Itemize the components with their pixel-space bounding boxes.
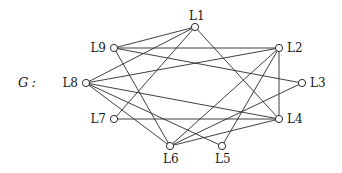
node-l3 xyxy=(298,79,305,86)
node-l5 xyxy=(218,142,225,149)
node-label-l6: L6 xyxy=(163,152,179,166)
node-l1 xyxy=(191,23,198,30)
node-label-l5: L5 xyxy=(215,152,231,166)
edge-l8-l4 xyxy=(86,83,279,119)
edge-l8-l1 xyxy=(86,27,195,83)
edge-l8-l5 xyxy=(86,83,222,146)
node-l7 xyxy=(110,115,117,122)
node-label-l9: L9 xyxy=(90,41,106,55)
node-label-l7: L7 xyxy=(90,112,106,126)
node-group: L1L2L3L4L5L6L7L8L9 xyxy=(62,9,325,166)
edge-l8-l2 xyxy=(86,48,279,83)
node-l4 xyxy=(275,115,282,122)
edge-l2-l6 xyxy=(170,48,279,146)
node-label-l3: L3 xyxy=(310,76,326,90)
node-label-l1: L1 xyxy=(189,9,205,23)
edge-l3-l6 xyxy=(170,83,302,146)
node-l2 xyxy=(275,44,282,51)
node-l9 xyxy=(110,44,117,51)
edge-l1-l4 xyxy=(195,27,279,119)
node-label-l8: L8 xyxy=(62,76,78,90)
node-label-l2: L2 xyxy=(287,41,303,55)
node-l6 xyxy=(166,142,173,149)
graph-name-label: G: xyxy=(18,75,36,90)
node-label-l4: L4 xyxy=(287,112,303,126)
edge-l9-l1 xyxy=(114,27,195,48)
edge-group xyxy=(86,27,302,146)
edge-l7-l1 xyxy=(114,27,195,119)
graph-diagram: G: L1L2L3L4L5L6L7L8L9 xyxy=(0,0,342,173)
node-l8 xyxy=(82,79,89,86)
